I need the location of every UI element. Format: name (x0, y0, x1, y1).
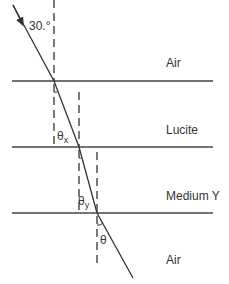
refraction-diagram: 30.° Air Lucite Medium Y Air θx θy θ (0, 0, 229, 284)
layer-label-air-bottom: Air (166, 254, 181, 266)
layer-label-air-top: Air (166, 57, 181, 69)
light-ray (13, 5, 133, 278)
angle-arc-theta (97, 223, 103, 225)
theta-y-label: θy (78, 195, 89, 210)
incident-angle-label: 30.° (29, 20, 50, 32)
layer-label-medium-y: Medium Y (166, 190, 220, 202)
theta-label: θ (100, 234, 107, 246)
theta-x-label: θx (57, 130, 68, 145)
diagram-lines (0, 0, 229, 284)
layer-label-lucite: Lucite (166, 124, 198, 136)
